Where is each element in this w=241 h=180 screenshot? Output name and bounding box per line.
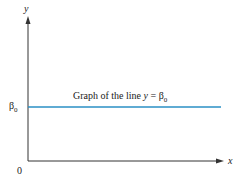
- beta0-tick-label: β0: [9, 101, 18, 114]
- y-axis-arrow-icon: [26, 16, 31, 24]
- origin-label: 0: [17, 166, 22, 176]
- y-axis-label: y: [24, 4, 28, 14]
- x-axis-label: x: [228, 156, 232, 166]
- x-axis-arrow-icon: [216, 159, 224, 164]
- line-annotation: Graph of the line y = β0: [73, 91, 167, 104]
